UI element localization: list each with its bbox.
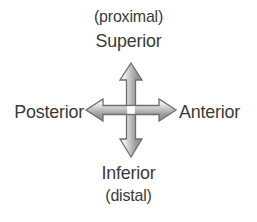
four-way-arrow-icon: [82, 58, 180, 162]
label-inferior: Inferior: [8, 162, 250, 184]
label-superior: Superior: [8, 30, 250, 52]
label-proximal: (proximal): [8, 7, 250, 27]
label-anterior: Anterior: [179, 101, 252, 123]
arrow-center-junction: [127, 106, 135, 114]
anatomical-directions-diagram: (proximal) Superior Posterior Anterior I…: [0, 0, 257, 222]
label-distal: (distal): [8, 186, 250, 206]
label-posterior: Posterior: [5, 101, 84, 123]
